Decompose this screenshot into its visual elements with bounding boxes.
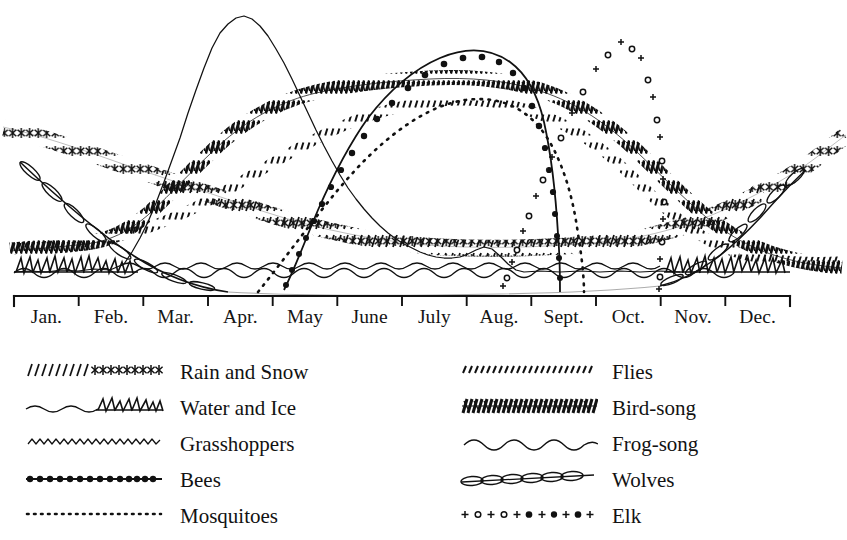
month-label-oct: Oct. bbox=[596, 306, 661, 328]
axis-ticks bbox=[79, 296, 726, 306]
legend-item-frog-song[interactable]: Frog-song bbox=[430, 427, 847, 461]
chart-legend: Rain and Snow Water and bbox=[0, 345, 847, 540]
rain-and-snow-swatch bbox=[24, 356, 164, 388]
mosquitoes-swatch bbox=[24, 500, 164, 532]
month-label-aug: Aug. bbox=[467, 306, 532, 328]
month-label-apr: Apr. bbox=[208, 306, 273, 328]
legend-label-bird-song: Bird-song bbox=[612, 398, 696, 419]
x-axis bbox=[14, 296, 790, 306]
grasshoppers-swatch bbox=[24, 428, 164, 460]
water-and-ice-swatch bbox=[24, 392, 164, 424]
chart-plot-area: Jan. Feb. Mar. Apr. May June July Aug. S… bbox=[0, 0, 847, 340]
month-label-dec: Dec. bbox=[725, 306, 790, 328]
legend-item-mosquitoes[interactable]: Mosquitoes bbox=[0, 499, 430, 533]
flies-swatch bbox=[460, 356, 598, 388]
legend-item-elk[interactable]: Elk bbox=[430, 499, 847, 533]
wolves-swatch bbox=[460, 464, 598, 496]
legend-item-flies[interactable]: Flies bbox=[430, 355, 847, 389]
month-label-mar: Mar. bbox=[143, 306, 208, 328]
month-label-jan: Jan. bbox=[14, 306, 79, 328]
legend-label-frog-song: Frog-song bbox=[612, 434, 698, 455]
ice-spikes-winter-start bbox=[14, 256, 138, 273]
legend-label-bees: Bees bbox=[180, 470, 221, 491]
month-label-sept: Sept. bbox=[531, 306, 596, 328]
legend-item-wolves[interactable]: Wolves bbox=[430, 463, 847, 497]
legend-item-bees[interactable]: Bees bbox=[0, 463, 430, 497]
series-frog-song bbox=[14, 269, 734, 278]
legend-label-elk: Elk bbox=[612, 506, 641, 527]
legend-item-water-and-ice[interactable]: Water and Ice bbox=[0, 391, 430, 425]
month-label-june: June bbox=[337, 306, 402, 328]
legend-item-bird-song[interactable]: Bird-song bbox=[430, 391, 847, 425]
legend-column-left: Rain and Snow Water and bbox=[0, 345, 430, 515]
month-label-feb: Feb. bbox=[79, 306, 144, 328]
legend-item-rain-and-snow[interactable]: Rain and Snow bbox=[0, 355, 430, 389]
legend-column-right: Flies bbox=[430, 345, 847, 515]
phenology-chart-figure: Jan. Feb. Mar. Apr. May June July Aug. S… bbox=[0, 0, 847, 540]
elk-swatch bbox=[460, 500, 598, 532]
legend-label-rain-and-snow: Rain and Snow bbox=[180, 362, 308, 383]
legend-label-flies: Flies bbox=[612, 362, 653, 383]
chart-svg bbox=[0, 0, 847, 340]
legend-item-grasshoppers[interactable]: Grasshoppers bbox=[0, 427, 430, 461]
month-label-may: May bbox=[273, 306, 338, 328]
legend-label-mosquitoes: Mosquitoes bbox=[180, 506, 278, 527]
legend-label-grasshoppers: Grasshoppers bbox=[180, 434, 294, 455]
legend-label-water-and-ice: Water and Ice bbox=[180, 398, 296, 419]
legend-label-wolves: Wolves bbox=[612, 470, 674, 491]
frog-song-swatch bbox=[460, 428, 598, 460]
month-label-july: July bbox=[402, 306, 467, 328]
bees-swatch bbox=[24, 464, 164, 496]
month-label-nov: Nov. bbox=[661, 306, 726, 328]
bird-song-swatch bbox=[460, 392, 598, 424]
